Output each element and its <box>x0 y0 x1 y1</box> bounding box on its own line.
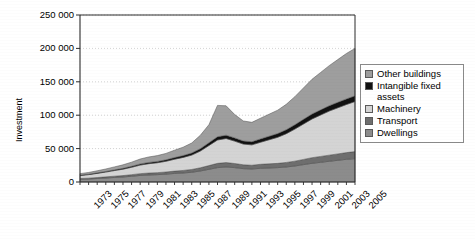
legend-swatch-icon <box>365 70 373 78</box>
legend-item-label: Transport <box>377 115 417 126</box>
legend-item[interactable]: Dwellings <box>365 127 460 138</box>
legend-swatch-icon <box>365 129 373 137</box>
legend-item-label: Dwellings <box>377 127 418 138</box>
stacked-area-chart: Investment 250 000200 000150 000100 0005… <box>0 0 475 239</box>
legend-item[interactable]: Machinery <box>365 103 460 114</box>
legend-item[interactable]: Intangible fixed assets <box>365 80 460 102</box>
legend-swatch-icon <box>365 105 373 113</box>
legend: Other buildingsIntangible fixed assetsMa… <box>360 64 464 143</box>
legend-item-label: Machinery <box>377 103 421 114</box>
legend-item-label: Other buildings <box>377 68 441 79</box>
legend-swatch-icon <box>365 82 373 90</box>
legend-swatch-icon <box>365 117 373 125</box>
legend-item[interactable]: Other buildings <box>365 68 460 79</box>
legend-item-label: Intangible fixed assets <box>377 80 460 102</box>
legend-item[interactable]: Transport <box>365 115 460 126</box>
